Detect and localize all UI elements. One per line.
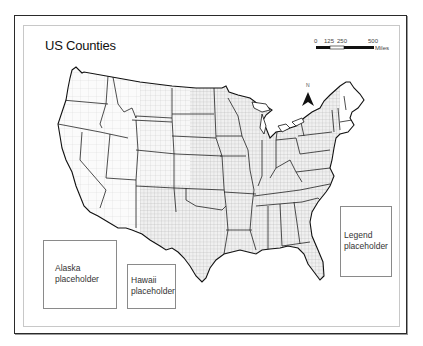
- hawaii-sublabel: placeholder: [131, 286, 175, 297]
- scale-tick-250: 250: [337, 38, 347, 44]
- alaska-label: Alaska: [55, 263, 99, 274]
- north-arrow-icon: [302, 92, 314, 106]
- legend-placeholder-text: Legend placeholder: [344, 230, 388, 252]
- scale-unit: Miles: [375, 45, 389, 51]
- scale-tick-125: 125: [324, 38, 334, 44]
- scale-bar: [316, 46, 374, 49]
- legend-label: Legend: [344, 230, 388, 241]
- scale-tick-0: 0: [314, 38, 317, 44]
- legend-sublabel: placeholder: [344, 241, 388, 252]
- hawaii-label: Hawaii: [131, 275, 175, 286]
- hawaii-placeholder-text: Hawaii placeholder: [131, 275, 175, 297]
- alaska-sublabel: placeholder: [55, 274, 99, 285]
- north-arrow-label: N: [306, 82, 310, 88]
- scale-tick-500: 500: [368, 38, 378, 44]
- alaska-placeholder-text: Alaska placeholder: [55, 263, 99, 285]
